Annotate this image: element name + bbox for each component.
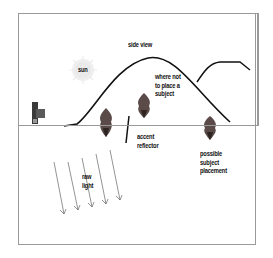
- outer-border: [18, 13, 256, 245]
